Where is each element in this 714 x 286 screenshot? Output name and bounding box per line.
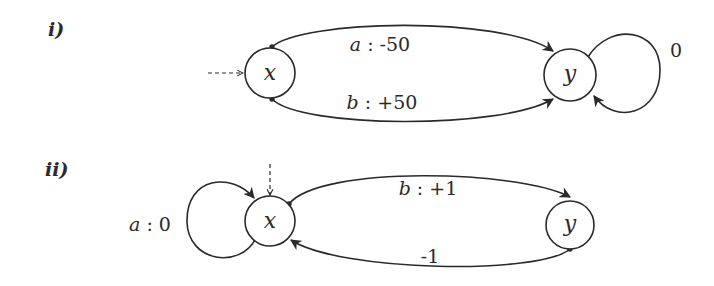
diagram-i: i) x y a : -50 b : +50 0 — [48, 18, 682, 122]
automata-figure: i) x y a : -50 b : +50 0 ii) — [0, 0, 714, 286]
panel-label-i: i) — [48, 18, 64, 40]
state-node-x: x — [245, 196, 295, 246]
edge-label-b-plus-1: b : +1 — [399, 177, 458, 199]
edge-label-self-loop-0: 0 — [670, 39, 682, 61]
edge-label-a-0: a : 0 — [129, 213, 171, 235]
edge-label-b-plus-50: b : +50 — [347, 91, 418, 113]
state-label-x: x — [264, 60, 277, 85]
self-loop-y — [588, 34, 660, 112]
state-label-y: y — [563, 61, 577, 86]
edge-x-to-y-a — [272, 25, 553, 51]
state-node-y: y — [546, 201, 594, 249]
edge-label-a-minus-50: a : -50 — [350, 33, 410, 55]
diagram-ii: ii) x y a : 0 b : +1 -1 — [45, 158, 594, 267]
state-node-y: y — [544, 49, 596, 101]
state-label-y: y — [563, 211, 577, 236]
panel-label-ii: ii) — [45, 158, 68, 180]
state-label-x: x — [264, 208, 277, 233]
state-node-x: x — [245, 48, 295, 98]
edge-label-minus-1: -1 — [421, 245, 440, 267]
